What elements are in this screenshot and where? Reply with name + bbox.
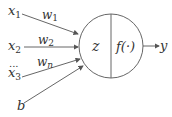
input-x3-label: x3 xyxy=(8,65,21,82)
bias-label: b xyxy=(17,98,25,113)
input-x2-label: x2 xyxy=(8,38,21,55)
neuron-diagram: x1 x2 ... x3 b w1 w2 wn z f(·) y xyxy=(0,0,172,117)
arrow-bias xyxy=(24,66,83,103)
activation-label: f(·) xyxy=(115,39,135,54)
weight-wn-label: wn xyxy=(37,55,53,70)
output-y-label: y xyxy=(159,38,168,53)
weight-w1-label: w1 xyxy=(42,8,58,23)
weight-w2-label: w2 xyxy=(38,33,54,48)
input-x1-label: x1 xyxy=(8,3,21,20)
sum-label: z xyxy=(91,38,100,54)
